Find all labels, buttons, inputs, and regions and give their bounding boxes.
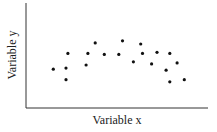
data-point — [52, 68, 55, 71]
data-point — [183, 78, 186, 81]
data-point — [150, 62, 153, 65]
data-point — [165, 69, 168, 72]
plot-area: Variable x Variable y — [0, 0, 217, 132]
data-point — [64, 67, 67, 70]
data-point — [66, 52, 69, 55]
data-point — [94, 41, 97, 44]
data-point — [155, 51, 158, 54]
data-point — [117, 53, 120, 56]
data-point — [141, 52, 144, 55]
x-axis-label: Variable x — [93, 113, 142, 127]
data-point — [132, 60, 135, 63]
y-axis-label: Variable y — [5, 31, 19, 80]
data-point — [85, 63, 88, 66]
data-point — [103, 53, 106, 56]
data-point — [168, 80, 171, 83]
data-point — [176, 61, 179, 64]
data-point — [168, 52, 171, 55]
data-point — [86, 52, 89, 55]
data-point — [64, 78, 67, 81]
data-point — [121, 39, 124, 42]
data-points — [52, 39, 186, 83]
data-point — [139, 42, 142, 45]
scatter-chart: Variable x Variable y — [0, 0, 217, 132]
